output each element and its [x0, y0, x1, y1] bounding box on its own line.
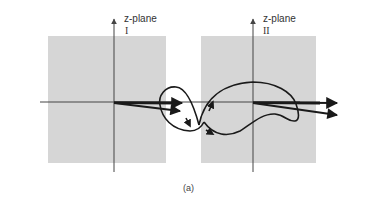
sheet-two-background — [201, 36, 316, 163]
sheet-one-upper-arrow — [114, 103, 182, 104]
sheet-one-numeral: I — [125, 25, 128, 36]
sheet-one-plane-label: z-plane — [124, 13, 157, 24]
sheet-one-background — [48, 36, 166, 163]
riemann-surface-diagram: z-plane I z-plane II (a) — [0, 0, 379, 219]
figure-caption: (a) — [183, 183, 194, 193]
sheet-two-numeral: II — [263, 25, 270, 36]
sheet-two-plane-label: z-plane — [263, 13, 296, 24]
direction-marker — [186, 118, 189, 124]
sheet-one-panel: z-plane I — [48, 13, 166, 172]
